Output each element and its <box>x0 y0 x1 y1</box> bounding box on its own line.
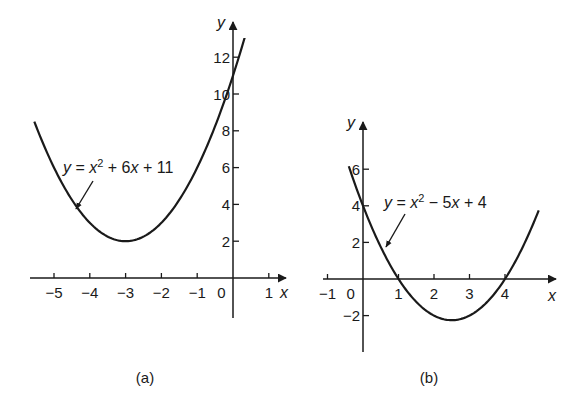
x-tick-label: 4 <box>501 285 509 302</box>
parabola-curve <box>349 166 539 320</box>
y-tick-label: 8 <box>222 122 230 139</box>
x-tick-label: 1 <box>265 284 273 301</box>
x-tick-label: −4 <box>81 284 98 301</box>
equation-label: y = x2 − 5x + 4 <box>383 192 487 211</box>
figure: −5−4−3−2−101 24681012 y x y = x2 + 6x + … <box>0 0 587 404</box>
x-tick-label: −1 <box>189 284 206 301</box>
y-tick-label: 4 <box>352 197 360 214</box>
x-tick-label: 2 <box>430 285 438 302</box>
x-axis-label: x <box>279 284 289 301</box>
x-tick-label: 3 <box>465 285 473 302</box>
figure-caption: (b) <box>420 369 438 386</box>
x-ticks: −5−4−3−2−101 <box>45 273 273 301</box>
figure-caption: (a) <box>136 369 154 386</box>
x-tick-label: 0 <box>346 285 354 302</box>
equation-label: y = x2 + 6x + 11 <box>62 157 173 176</box>
y-tick-label: 12 <box>213 49 230 66</box>
x-tick-label: −3 <box>117 284 134 301</box>
y-tick-label: 2 <box>222 233 230 250</box>
annotation-arrow-icon <box>76 181 93 209</box>
y-tick-label: −2 <box>343 307 360 324</box>
y-tick-label: 4 <box>222 196 230 213</box>
x-tick-label: −1 <box>319 285 336 302</box>
y-axis-label: y <box>346 114 356 131</box>
x-axis-label: x <box>547 287 557 304</box>
graph-panel-a: −5−4−3−2−101 24681012 y x y = x2 + 6x + … <box>30 14 289 386</box>
x-tick-label: −2 <box>153 284 170 301</box>
x-tick-label: 1 <box>394 285 402 302</box>
x-tick-label: −5 <box>45 284 62 301</box>
y-ticks: 24681012 <box>213 49 239 250</box>
y-tick-label: 2 <box>352 234 360 251</box>
x-ticks: −101234 <box>319 274 509 302</box>
y-tick-label: 6 <box>222 159 230 176</box>
annotation-arrow-icon <box>386 214 405 247</box>
x-tick-label: 0 <box>217 284 225 301</box>
graph-panel-b: −101234 −2246 y x y = x2 − 5x + 4 (b) <box>319 114 557 386</box>
y-axis-label: y <box>216 14 226 31</box>
